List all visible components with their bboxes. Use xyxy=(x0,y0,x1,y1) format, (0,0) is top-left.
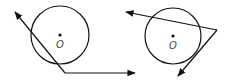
right-secant-ray xyxy=(126,12,217,30)
geometry-diagram: O O xyxy=(0,0,229,81)
right-tangent-ray xyxy=(178,30,217,76)
right-center-dot xyxy=(171,34,174,37)
left-center-label: O xyxy=(56,39,64,50)
right-figure: O xyxy=(126,8,217,76)
left-figure: O xyxy=(15,6,135,73)
right-center-label: O xyxy=(169,40,177,51)
left-center-dot xyxy=(58,33,61,36)
